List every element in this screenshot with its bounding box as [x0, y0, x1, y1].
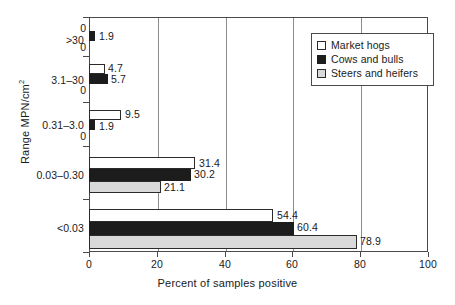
bar-value-g2-hogs: 9.5	[125, 108, 140, 120]
bar-g4-steers	[89, 235, 357, 249]
ytick-sep-4	[83, 199, 89, 200]
bar-g3-steers	[89, 181, 161, 193]
xtick-label-20: 20	[137, 258, 177, 270]
bar-value-g4-steers: 78.9	[360, 235, 381, 247]
bar-g3-hogs	[89, 157, 195, 169]
bar-value-g0-cows: 1.9	[99, 30, 114, 42]
ytick-sep-1	[83, 56, 89, 57]
bar-g1-cows	[89, 74, 108, 84]
legend-label-cows-and-bulls: Cows and bulls	[331, 53, 404, 65]
bar-g3-cows	[89, 169, 191, 181]
bar-value-g1-steers: 0	[66, 84, 86, 96]
bar-value-g0-hogs: 0	[66, 22, 86, 34]
bar-value-g1-cows: 5.7	[111, 73, 126, 85]
bar-value-g2-steers: 0	[66, 130, 86, 142]
ytick-sep-3	[83, 146, 89, 147]
bar-g0-cows	[89, 31, 95, 41]
legend-label-steers-and-heifers: Steers and heifers	[331, 67, 418, 79]
bar-chart: 0 20 40 60 80 100 Percent of samples pos…	[0, 0, 455, 305]
xtick-label-0: 0	[69, 258, 109, 270]
xtick-100	[428, 252, 429, 257]
bar-g4-hogs	[89, 209, 273, 222]
ytick-sep-0	[83, 17, 89, 18]
legend-label-market-hogs: Market hogs	[331, 39, 390, 51]
legend-item-cows-and-bulls[interactable]: Cows and bulls	[317, 52, 428, 66]
legend-item-market-hogs[interactable]: Market hogs	[317, 38, 428, 52]
x-axis-title: Percent of samples positive	[0, 277, 455, 289]
bar-value-g4-cows: 60.4	[297, 221, 318, 233]
legend-swatch-icon-market-hogs	[317, 41, 326, 50]
bar-g2-cows	[89, 120, 95, 130]
cat-label-0p03-0p30: 0.03–0.30	[0, 169, 84, 181]
bar-value-g3-steers: 21.1	[164, 181, 185, 193]
xtick-label-40: 40	[205, 258, 245, 270]
legend-swatch-icon-cows-and-bulls	[317, 55, 326, 64]
xtick-label-60: 60	[272, 258, 312, 270]
xtick-60	[292, 252, 293, 257]
cat-label-lt0p03: <0.03	[0, 222, 84, 234]
xtick-40	[225, 252, 226, 257]
xtick-20	[157, 252, 158, 257]
bar-value-g0-steers: 0	[66, 41, 86, 53]
legend-swatch-icon-steers-and-heifers	[317, 69, 326, 78]
bar-g2-hogs	[89, 110, 121, 120]
bar-value-g3-cows: 30.2	[194, 168, 215, 180]
xtick-label-80: 80	[340, 258, 380, 270]
xtick-80	[360, 252, 361, 257]
bar-g1-hogs	[89, 64, 105, 74]
legend: Market hogs Cows and bulls Steers and he…	[311, 33, 434, 86]
bar-value-g2-cows: 1.9	[99, 120, 114, 132]
xtick-label-100: 100	[408, 258, 448, 270]
xtick-0	[89, 252, 90, 257]
bar-value-g4-hogs: 54.4	[277, 209, 298, 221]
ytick-sep-2	[83, 102, 89, 103]
bar-g4-cows	[89, 222, 294, 235]
ytick-sep-5	[83, 252, 89, 253]
legend-item-steers-and-heifers[interactable]: Steers and heifers	[317, 66, 428, 80]
